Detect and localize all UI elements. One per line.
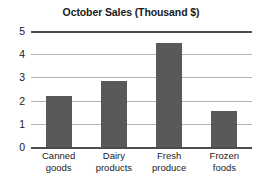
bar-series — [31, 31, 252, 147]
gridline-0 — [31, 147, 252, 149]
bar — [101, 81, 127, 147]
chart-title: October Sales (Thousand $) — [0, 6, 262, 18]
bar — [46, 96, 72, 147]
x-tick-label: Cannedgoods — [31, 150, 86, 173]
x-tick-label-line1: Fresh — [142, 150, 197, 162]
x-tick-label: Frozenfoods — [197, 150, 252, 173]
y-tick-label: 5 — [8, 26, 25, 37]
y-tick-label: 3 — [8, 72, 25, 83]
y-tick-label: 4 — [8, 49, 25, 60]
x-tick-label: Freshproduce — [142, 150, 197, 173]
x-tick-label: Dairyproducts — [86, 150, 141, 173]
x-tick-label-line1: Frozen — [197, 150, 252, 162]
y-tick-label: 2 — [8, 95, 25, 106]
x-tick-label-line1: Dairy — [86, 150, 141, 162]
x-axis-labels: CannedgoodsDairyproductsFreshproduceFroz… — [31, 150, 252, 186]
x-tick-label-line2: foods — [197, 162, 252, 174]
y-tick-label: 0 — [8, 142, 25, 153]
bar-chart: October Sales (Thousand $) CannedgoodsDa… — [0, 0, 262, 190]
x-tick-label-line2: produce — [142, 162, 197, 174]
x-tick-label-line2: goods — [31, 162, 86, 174]
x-tick-label-line1: Canned — [31, 150, 86, 162]
bar — [156, 43, 182, 147]
y-tick-label: 1 — [8, 119, 25, 130]
bar — [211, 111, 237, 147]
x-tick-label-line2: products — [86, 162, 141, 174]
